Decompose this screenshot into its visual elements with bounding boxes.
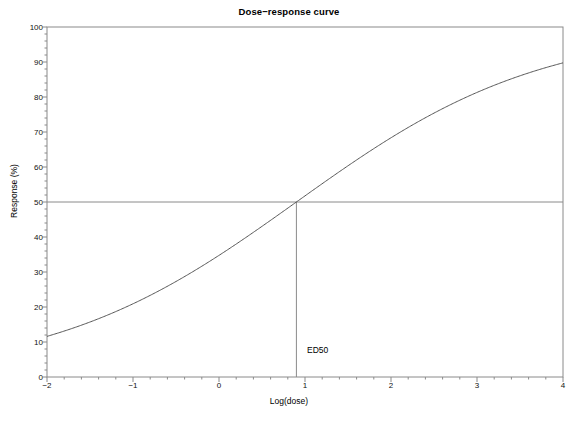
x-tick-label: 2 xyxy=(376,381,406,390)
x-tick-label: −1 xyxy=(118,381,148,390)
major-tick-marks xyxy=(42,27,563,382)
y-tick-label: 80 xyxy=(17,93,43,102)
plot-canvas xyxy=(47,27,563,377)
x-tick-label: 4 xyxy=(548,381,578,390)
y-tick-label: 100 xyxy=(17,23,43,32)
x-axis-title: Log(dose) xyxy=(0,396,578,406)
x-tick-label: −2 xyxy=(32,381,62,390)
y-tick-label: 50 xyxy=(17,198,43,207)
y-tick-label: 90 xyxy=(17,58,43,67)
y-tick-label: 20 xyxy=(17,303,43,312)
y-axis-tick-labels: 0102030405060708090100 xyxy=(14,27,43,377)
chart-title: Dose−response curve xyxy=(0,6,578,17)
plot-area: ED50 xyxy=(47,27,563,377)
x-tick-label: 3 xyxy=(462,381,492,390)
minor-tick-marks xyxy=(45,34,546,380)
ed50-annotation-label: ED50 xyxy=(307,345,328,355)
dose-response-chart-figure: Dose−response curve Response (%) 0102030… xyxy=(0,0,578,421)
y-tick-label: 10 xyxy=(17,338,43,347)
y-tick-label: 70 xyxy=(17,128,43,137)
y-tick-label: 30 xyxy=(17,268,43,277)
y-tick-label: 60 xyxy=(17,163,43,172)
x-tick-label: 0 xyxy=(204,381,234,390)
x-tick-label: 1 xyxy=(290,381,320,390)
dose-response-curve xyxy=(47,63,563,337)
x-axis-tick-labels: −2−101234 xyxy=(47,381,563,397)
y-tick-label: 40 xyxy=(17,233,43,242)
